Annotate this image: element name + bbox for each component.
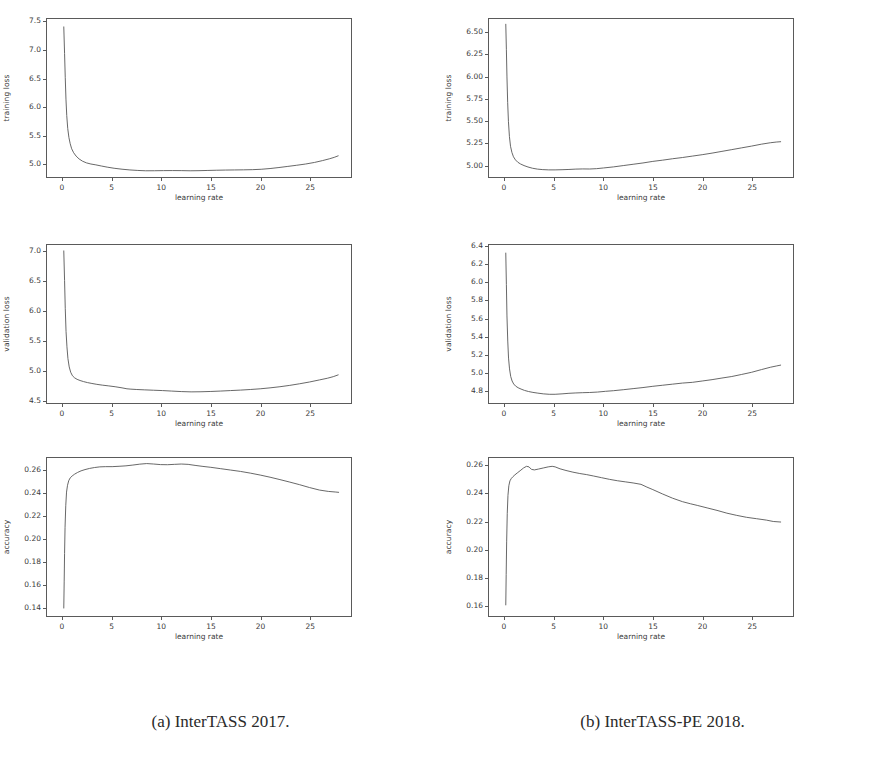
y-tick-mark [43,516,46,517]
y-tick-label: 4.5 [4,396,41,405]
data-line [47,458,351,616]
x-tick-label: 5 [97,409,127,418]
y-tick-mark [485,578,488,579]
x-tick-mark [261,617,262,620]
y-tick-mark [485,550,488,551]
x-tick-mark [504,178,505,181]
x-tick-label: 20 [246,622,276,631]
panel-b-accuracy: 0.160.180.200.220.240.260510152025learni… [442,453,883,668]
x-tick-label: 25 [295,409,325,418]
y-tick-label: 5.0 [4,159,41,168]
y-tick-label: 5.0 [446,368,483,377]
x-tick-label: 15 [638,622,668,631]
x-tick-label: 0 [489,409,519,418]
x-tick-mark [310,404,311,407]
x-tick-mark [62,617,63,620]
y-tick-label: 0.18 [4,557,41,566]
y-tick-label: 0.24 [4,488,41,497]
x-tick-label: 25 [737,183,767,192]
y-tick-mark [43,50,46,51]
x-tick-mark [310,178,311,181]
y-tick-mark [43,401,46,402]
y-tick-mark [43,79,46,80]
x-tick-label: 5 [539,409,569,418]
y-tick-mark [485,166,488,167]
x-tick-mark [703,178,704,181]
y-tick-label: 0.26 [446,460,483,469]
y-axis-label: validation loss [444,296,453,351]
y-tick-label: 0.16 [446,601,483,610]
x-tick-mark [211,178,212,181]
y-tick-mark [485,337,488,338]
x-tick-label: 0 [47,622,77,631]
y-tick-label: 0.26 [4,465,41,474]
y-tick-mark [43,341,46,342]
y-tick-mark [485,465,488,466]
x-tick-mark [211,617,212,620]
y-tick-mark [485,373,488,374]
x-tick-label: 0 [489,622,519,631]
y-tick-mark [43,493,46,494]
x-tick-label: 20 [246,183,276,192]
x-tick-mark [703,404,704,407]
y-tick-mark [43,539,46,540]
x-tick-mark [112,404,113,407]
x-tick-mark [653,617,654,620]
x-tick-label: 15 [638,409,668,418]
y-tick-mark [485,282,488,283]
x-tick-mark [603,404,604,407]
x-tick-mark [161,178,162,181]
x-tick-label: 25 [737,622,767,631]
y-tick-label: 5.25 [446,138,483,147]
x-tick-mark [112,617,113,620]
data-line [47,19,351,177]
x-axis-label: learning rate [488,632,794,641]
x-tick-label: 15 [196,622,226,631]
x-tick-label: 10 [588,622,618,631]
x-tick-mark [112,178,113,181]
subfigure-a-caption: (a) InterTASS 2017. [0,712,441,732]
x-tick-label: 5 [539,183,569,192]
x-tick-label: 20 [688,183,718,192]
data-line [489,245,793,403]
x-tick-mark [161,617,162,620]
y-tick-label: 5.0 [4,366,41,375]
y-axis-label: validation loss [2,296,11,351]
y-tick-label: 7.0 [4,246,41,255]
x-tick-label: 5 [539,622,569,631]
y-tick-label: 6.2 [446,259,483,268]
y-tick-mark [43,585,46,586]
y-tick-mark [43,608,46,609]
y-tick-label: 6.5 [4,276,41,285]
x-tick-label: 10 [588,183,618,192]
x-tick-mark [161,404,162,407]
data-line [489,19,793,177]
x-tick-mark [653,178,654,181]
y-tick-mark [43,21,46,22]
x-tick-mark [211,404,212,407]
y-tick-label: 6.0 [446,277,483,286]
y-tick-mark [485,606,488,607]
y-tick-mark [43,311,46,312]
x-tick-mark [504,617,505,620]
panel-b-validation-loss: 4.85.05.25.45.65.86.06.26.40510152025lea… [442,240,883,453]
x-tick-mark [653,404,654,407]
x-tick-label: 0 [47,409,77,418]
x-tick-label: 20 [688,409,718,418]
x-tick-label: 10 [146,183,176,192]
x-tick-mark [752,617,753,620]
x-axis-label: learning rate [488,193,794,202]
x-tick-mark [752,178,753,181]
y-tick-mark [485,99,488,100]
y-tick-label: 7.0 [4,45,41,54]
x-tick-label: 25 [737,409,767,418]
plot-area [46,244,352,404]
y-tick-mark [485,264,488,265]
x-axis-label: learning rate [46,193,352,202]
y-tick-label: 0.18 [446,573,483,582]
x-tick-label: 20 [688,622,718,631]
x-axis-label: learning rate [46,632,352,641]
x-tick-label: 15 [638,183,668,192]
y-tick-label: 5.00 [446,161,483,170]
plot-area [46,457,352,617]
